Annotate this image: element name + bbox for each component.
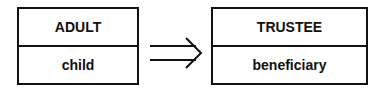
left-box-bottom-label: child [19, 47, 137, 83]
right-box-bottom-label: beneficiary [213, 47, 366, 83]
analogy-box-left: ADULT child [17, 7, 139, 85]
left-box-top-label: ADULT [19, 9, 137, 47]
double-arrow-right-icon [148, 36, 204, 72]
right-box-top-label: TRUSTEE [213, 9, 366, 47]
analogy-box-right: TRUSTEE beneficiary [211, 7, 368, 85]
